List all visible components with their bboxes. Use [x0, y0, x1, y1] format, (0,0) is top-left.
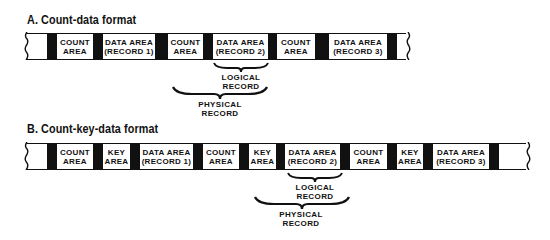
record-area: DATA AREA (RECORD 1): [140, 144, 193, 169]
count-data-title: A. Count-data format: [27, 13, 136, 27]
record-area: COUNT AREA: [277, 34, 315, 59]
torn-edge-left: [24, 32, 29, 60]
interrecord-gap: [193, 144, 203, 169]
record-area: DATA AREA (RECORD 1): [103, 34, 155, 59]
interrecord-gap: [340, 144, 350, 169]
torn-edge-right: [526, 142, 531, 170]
record-area: DATA AREA (RECORD 3): [433, 144, 489, 169]
record-area: COUNT AREA: [57, 34, 93, 59]
interrecord-gap: [387, 34, 397, 59]
count-key-data-track: COUNT AREAKEY AREADATA AREA (RECORD 1)CO…: [27, 143, 528, 170]
physical-record-brace-a: [172, 86, 268, 100]
count-key-data-title: B. Count-key-data format: [27, 122, 158, 136]
interrecord-gap: [239, 144, 249, 169]
record-area: COUNT AREA: [350, 144, 387, 169]
interrecord-gap: [489, 144, 499, 169]
record-area: KEY AREA: [397, 144, 423, 169]
record-area: DATA AREA (RECORD 3): [329, 34, 387, 59]
interrecord-gap: [130, 144, 140, 169]
track-edge: [499, 144, 515, 169]
record-area: KEY AREA: [249, 144, 276, 169]
record-area: DATA AREA (RECORD 2): [285, 144, 340, 169]
interrecord-gap: [47, 144, 57, 169]
physical-record-label-a: PHYSICAL RECORD: [195, 100, 245, 118]
track-edge: [27, 144, 47, 169]
interrecord-gap: [268, 34, 277, 59]
interrecord-gap: [387, 144, 397, 169]
record-area: COUNT AREA: [168, 34, 203, 59]
record-area: COUNT AREA: [57, 144, 93, 169]
interrecord-gap: [423, 144, 433, 169]
interrecord-gap: [155, 34, 168, 59]
physical-record-label-b: PHYSICAL RECORD: [276, 210, 326, 228]
torn-edge-right: [406, 32, 411, 60]
interrecord-gap: [47, 34, 57, 59]
interrecord-gap: [93, 34, 103, 59]
record-area: KEY AREA: [103, 144, 130, 169]
record-area: DATA AREA (RECORD 2): [213, 34, 268, 59]
count-data-track: COUNT AREADATA AREA (RECORD 1)COUNT AREA…: [27, 33, 408, 60]
torn-edge-left: [24, 142, 29, 170]
track-edge: [27, 34, 47, 59]
interrecord-gap: [203, 34, 213, 59]
record-area: COUNT AREA: [203, 144, 239, 169]
physical-record-brace-b: [254, 196, 350, 210]
interrecord-gap: [276, 144, 285, 169]
interrecord-gap: [93, 144, 103, 169]
interrecord-gap: [315, 34, 329, 59]
